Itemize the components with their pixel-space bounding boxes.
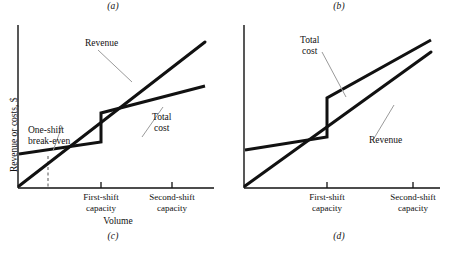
- total-cost-line1-b: Total: [300, 35, 319, 45]
- tick-b-0-line1: First-shift: [309, 192, 345, 202]
- annotation-breakeven-a: One-shift break-even: [28, 125, 70, 146]
- breakeven-line2-a: break-even: [28, 136, 70, 146]
- x-tick-label-first-shift-a: First-shift capacity: [63, 192, 139, 213]
- chart-panel-a: (a) Revenue or costs, $ Revenue Total co…: [0, 0, 226, 260]
- y-axis-label-a: Revenue or costs, $: [9, 98, 19, 172]
- x-axis-label-a: Volume: [78, 216, 158, 226]
- total-cost-line-b: [245, 40, 431, 150]
- tick-a-0-line2: capacity: [86, 203, 116, 213]
- chart-panel-b: (b) Revenue or costs, $ Total cost Reven…: [226, 0, 452, 260]
- breakeven-line1-a: One-shift: [28, 125, 64, 135]
- panel-b-caption-bottom: (d): [226, 231, 452, 241]
- series-label-revenue-a: Revenue: [85, 38, 118, 49]
- total-cost-line2-a: cost: [154, 123, 169, 133]
- tick-a-1-line1: Second-shift: [149, 192, 195, 202]
- x-tick-label-first-shift-b: First-shift capacity: [289, 192, 365, 213]
- x-tick-label-second-shift-a: Second-shift capacity: [134, 192, 210, 213]
- break-even-figure: (a) Revenue or costs, $ Revenue Total co…: [0, 0, 452, 260]
- series-label-total-cost-b: Total cost: [300, 35, 319, 56]
- panel-a-caption-bottom: (c): [0, 231, 226, 241]
- total-cost-line1-a: Total: [152, 112, 171, 122]
- total-cost-line2-b: cost: [302, 46, 317, 56]
- tick-a-1-line2: capacity: [157, 203, 187, 213]
- revenue-line-b: [245, 52, 431, 186]
- revenue-leader-a: [98, 50, 132, 82]
- total-cost-leader-b: [322, 52, 346, 97]
- tick-b-1-line2: capacity: [398, 203, 428, 213]
- x-tick-label-second-shift-b: Second-shift capacity: [375, 192, 451, 213]
- series-label-total-cost-a: Total cost: [152, 112, 171, 133]
- panel-b-plot: [226, 0, 452, 260]
- tick-b-1-line1: Second-shift: [390, 192, 436, 202]
- tick-b-0-line2: capacity: [312, 203, 342, 213]
- tick-a-0-line1: First-shift: [83, 192, 119, 202]
- series-label-revenue-b: Revenue: [369, 135, 402, 146]
